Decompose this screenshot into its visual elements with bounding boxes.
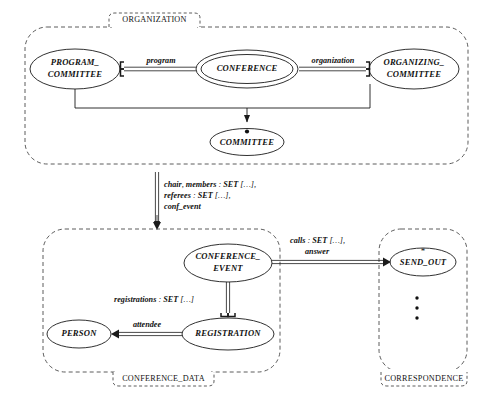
entity-conference-event-label-line1: CONFERENCE_ — [195, 251, 260, 261]
link-organization-to-conference-data[interactable]: chair, members : SET […], referees : SET… — [153, 172, 256, 230]
generalization-to-committee — [75, 84, 370, 122]
entity-conference-event[interactable]: CONFERENCE_ EVENT — [184, 244, 272, 282]
relation-program-bracket-top — [121, 62, 125, 69]
relation-attendee-arrowhead — [111, 330, 119, 339]
entity-registration[interactable]: REGISTRATION — [182, 318, 274, 350]
relation-organization-bracket-bottom — [366, 69, 370, 76]
entity-committee[interactable]: COMMITTEE — [210, 129, 284, 156]
cluster-correspondence-label: CORRESPONDENCE — [384, 374, 463, 383]
relation-organization-bracket-top — [366, 62, 370, 69]
entity-program-committee-label-line2: COMMITTEE — [48, 69, 102, 79]
relation-organization-label: organization — [312, 56, 355, 65]
relation-registrations[interactable]: registrations : SET […] — [114, 282, 235, 317]
entity-send-out-label: SEND_OUT — [400, 257, 447, 267]
annotation-conference-features-line3: conf_event — [164, 202, 202, 211]
link-calls-arrowhead — [383, 258, 391, 267]
entity-conference[interactable]: CONFERENCE — [196, 50, 298, 88]
relation-program-label: program — [145, 56, 175, 65]
entity-person-label: PERSON — [61, 328, 97, 338]
link-conference-event-to-send-out[interactable]: calls : SET […], answer — [272, 236, 391, 267]
entity-program-committee[interactable]: PROGRAM_ COMMITTEE — [30, 49, 120, 89]
entity-organizing-committee[interactable]: ORGANIZING_ COMMITTEE — [369, 49, 459, 89]
cluster-diagram: ORGANIZATION PROGRAM_ COMMITTEE CONFEREN… — [0, 0, 492, 404]
committee-deferred-dot-icon — [245, 129, 249, 133]
diagram-canvas: ORGANIZATION PROGRAM_ COMMITTEE CONFEREN… — [0, 0, 492, 404]
entity-conference-label: CONFERENCE — [217, 63, 278, 73]
annotation-registrations-features: registrations : SET […] — [114, 295, 194, 304]
relation-program[interactable]: program — [121, 56, 197, 76]
send-out-star-icon: * — [421, 246, 426, 256]
annotation-calls-features: calls : SET […], answer — [290, 236, 345, 256]
relation-registrations-bracket-left — [221, 313, 228, 317]
entity-registration-label: REGISTRATION — [194, 328, 261, 338]
annotation-calls-features-line2: answer — [305, 247, 330, 256]
entity-organizing-committee-label-line2: COMMITTEE — [387, 69, 441, 79]
entity-program-committee-label-line1: PROGRAM_ — [51, 57, 99, 67]
entity-person[interactable]: PERSON — [47, 320, 111, 348]
relation-attendee-label: attendee — [133, 320, 162, 329]
correspondence-ellipsis-dot-2 — [415, 306, 418, 309]
cluster-organization-tab-mask — [112, 24, 197, 30]
relation-attendee[interactable]: attendee — [111, 320, 182, 339]
entity-send-out[interactable]: * SEND_OUT — [390, 246, 456, 276]
entity-conference-event-label-line2: EVENT — [212, 263, 243, 273]
cluster-organization-label: ORGANIZATION — [122, 15, 186, 24]
cluster-conference-data-label: CONFERENCE_DATA — [122, 374, 205, 383]
annotation-conference-features-line1: chair, members : SET […], — [164, 180, 256, 189]
generalization-bus — [75, 84, 370, 108]
correspondence-ellipsis-icon — [415, 296, 418, 319]
relation-registrations-bracket-right — [228, 313, 235, 317]
annotation-calls-features-line1: calls : SET […], — [290, 236, 345, 245]
entity-committee-label: COMMITTEE — [220, 137, 274, 147]
entity-organizing-committee-label-line1: ORGANIZING_ — [384, 57, 445, 67]
relation-program-bracket-bottom — [121, 69, 125, 76]
annotation-conference-features: chair, members : SET […], referees : SET… — [164, 180, 256, 211]
annotation-conference-features-line2: referees : SET […], — [164, 191, 230, 200]
relation-organization[interactable]: organization — [299, 56, 370, 76]
correspondence-ellipsis-dot-1 — [415, 296, 418, 299]
correspondence-ellipsis-dot-3 — [415, 316, 418, 319]
